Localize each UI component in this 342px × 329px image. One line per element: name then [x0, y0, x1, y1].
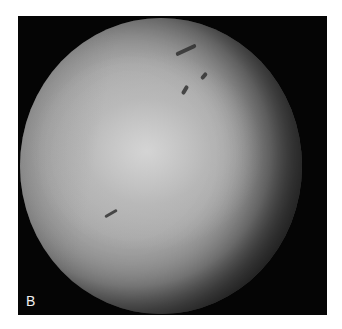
- image-frame: B: [18, 16, 327, 315]
- vignette: [20, 18, 302, 314]
- panel-label: B: [26, 293, 35, 309]
- endoscopic-view: [20, 18, 302, 314]
